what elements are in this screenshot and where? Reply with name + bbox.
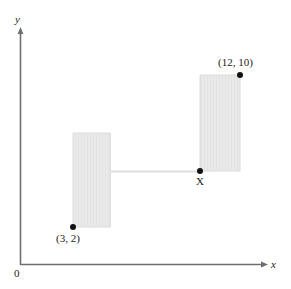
origin-label: 0 [14,268,20,279]
point-marker-top-right [237,72,243,78]
figure-container: y x 0 (12, 10) (3, 2) X [0,0,291,289]
point-marker-x [197,168,203,174]
figure-canvas [0,0,291,289]
point-label-top-right: (12, 10) [218,57,253,68]
point-label-x: X [196,176,204,187]
x-axis-label: x [271,259,276,270]
point-marker-bottom-left [70,224,76,230]
y-axis-arrow-icon [18,27,24,34]
y-axis-label: y [15,14,20,25]
point-label-bottom-left: (3, 2) [56,233,80,244]
x-axis-arrow-icon [261,262,268,268]
shaded-polygon [73,75,240,227]
